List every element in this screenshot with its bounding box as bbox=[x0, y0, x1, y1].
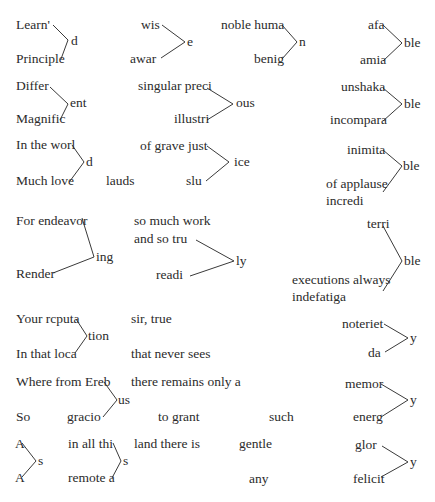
stem-word: felicit bbox=[353, 471, 384, 487]
stem-word: and so tru bbox=[134, 231, 187, 247]
suffix-label: ent bbox=[70, 95, 87, 111]
loose-word: that never sees bbox=[131, 346, 210, 362]
stem-word: awar bbox=[130, 51, 156, 67]
stem-word: slu bbox=[186, 173, 202, 189]
stem-word: Learn' bbox=[16, 17, 50, 33]
stem-word: illustri bbox=[174, 111, 209, 127]
stem-word: executions always bbox=[292, 272, 391, 288]
stem-word: in all thi bbox=[68, 436, 113, 452]
stem-word: afa bbox=[368, 17, 384, 33]
suffix-label: tion bbox=[88, 328, 109, 344]
suffix-label: d bbox=[71, 33, 78, 49]
stem-word: unshaka bbox=[341, 79, 385, 95]
connector-lines bbox=[0, 0, 435, 502]
stem-word: benig bbox=[254, 51, 284, 67]
suffix-label: ly bbox=[236, 253, 247, 269]
stem-word: Magnific bbox=[16, 111, 66, 127]
stem-word: glor bbox=[355, 437, 377, 453]
stem-word: singular preci bbox=[138, 78, 212, 94]
loose-word: any bbox=[249, 471, 269, 487]
stem-word: inimita bbox=[347, 142, 385, 158]
suffix-label: ice bbox=[234, 154, 250, 170]
stem-word: Much love bbox=[16, 173, 74, 189]
suffix-label: e bbox=[187, 34, 193, 50]
suffix-label: y bbox=[410, 392, 417, 408]
stem-word: A bbox=[15, 470, 25, 486]
stem-word: For endeavor bbox=[16, 213, 88, 229]
suffix-label: s bbox=[123, 453, 128, 469]
stem-word: of grave just bbox=[140, 138, 207, 154]
stem-word: energ bbox=[353, 409, 383, 425]
suffix-label: d bbox=[86, 154, 93, 170]
stem-word: of applause bbox=[326, 176, 388, 192]
stem-word: In that loca bbox=[16, 346, 77, 362]
suffix-label: y bbox=[410, 454, 417, 470]
suffix-label: ble bbox=[404, 96, 421, 112]
suffix-matching-worksheet: Learn' Principle d wis awar e noble huma… bbox=[0, 0, 435, 502]
stem-word: gracio bbox=[67, 409, 101, 425]
stem-word: wis bbox=[141, 17, 160, 33]
stem-word: Where from Ereb bbox=[16, 374, 110, 390]
stem-word: indefatiga bbox=[292, 289, 346, 305]
loose-word: such bbox=[269, 409, 294, 425]
stem-word: Render bbox=[16, 266, 55, 282]
stem-word: noteriet bbox=[342, 316, 383, 332]
stem-word: memor bbox=[345, 376, 383, 392]
loose-word: gentle bbox=[239, 436, 272, 452]
suffix-label: ous bbox=[236, 95, 255, 111]
stem-word: Your rcputa bbox=[16, 311, 80, 327]
loose-word: lauds bbox=[106, 173, 135, 189]
stem-word: incompara bbox=[330, 112, 387, 128]
stem-word: so much work bbox=[134, 213, 211, 229]
suffix-label: ing bbox=[96, 249, 113, 265]
stem-word: da bbox=[368, 345, 381, 361]
suffix-label: s bbox=[38, 453, 43, 469]
suffix-label: ble bbox=[404, 35, 421, 51]
loose-word: land there is bbox=[134, 436, 200, 452]
stem-word: Principle bbox=[16, 51, 65, 67]
stem-word: terri bbox=[367, 216, 390, 232]
suffix-label: y bbox=[410, 330, 417, 346]
suffix-label: ble bbox=[403, 158, 420, 174]
stem-word: amia bbox=[360, 52, 386, 68]
stem-word: Differ bbox=[16, 78, 49, 94]
loose-word: there remains only a bbox=[131, 374, 241, 390]
suffix-label: ble bbox=[404, 253, 421, 269]
stem-word: noble huma bbox=[221, 17, 284, 33]
stem-word: incredi bbox=[326, 193, 363, 209]
loose-word: to grant bbox=[158, 409, 200, 425]
stem-word: readi bbox=[156, 267, 183, 283]
loose-word: sir, true bbox=[131, 311, 172, 327]
loose-word: So bbox=[16, 409, 30, 425]
stem-word: A bbox=[15, 436, 25, 452]
stem-word: remote a bbox=[68, 470, 115, 486]
stem-word: In the worl bbox=[16, 137, 75, 153]
suffix-label: us bbox=[118, 392, 130, 408]
suffix-label: n bbox=[299, 34, 306, 50]
